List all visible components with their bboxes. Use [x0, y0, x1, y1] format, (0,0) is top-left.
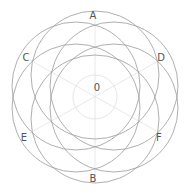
point-label-e: E	[21, 132, 27, 143]
label-group: 0ABCDEF	[21, 10, 165, 184]
construction-guides	[30, 12, 160, 182]
center-label: 0	[94, 82, 100, 93]
point-label-a: A	[90, 10, 97, 21]
point-label-d: D	[157, 52, 165, 63]
point-label-c: C	[23, 52, 30, 63]
point-label-b: B	[90, 173, 97, 184]
point-label-f: F	[156, 132, 162, 143]
overlapping-circles-diagram: 0ABCDEF	[0, 0, 184, 193]
